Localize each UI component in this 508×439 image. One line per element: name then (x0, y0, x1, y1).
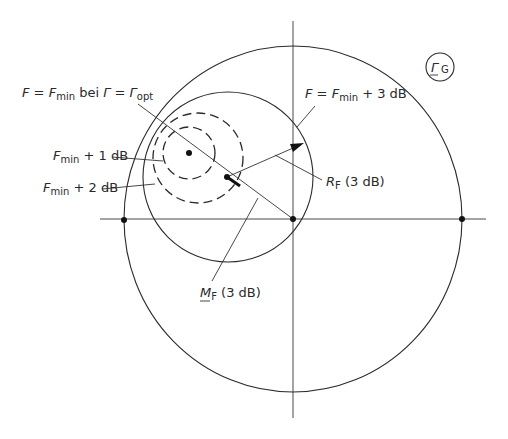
radius-arrowhead-icon (290, 143, 304, 152)
noise-circle-diagram: Γ G F = Fmin bei Γ = Γopt Fmin + 1 dB Fm… (0, 0, 508, 439)
right-axis-point (459, 216, 465, 222)
label-center-mf: MF (3 dB) (200, 285, 261, 302)
label-fmin-plus-2db: Fmin + 2 dB (43, 180, 118, 197)
gamma-g-sub: G (441, 64, 449, 75)
left-axis-point (121, 217, 127, 223)
label-fmin-plus-1db: Fmin + 1 dB (53, 148, 128, 165)
label-radius-rf: RF (3 dB) (326, 174, 385, 191)
label-fmin-plus-3db: F = Fmin + 3 dB (305, 86, 407, 103)
label-optimum: F = Fmin bei Γ = Γopt (22, 85, 153, 102)
gamma-g-symbol: Γ (431, 60, 440, 75)
leader-3db (297, 106, 315, 127)
radius-line (227, 145, 300, 177)
mf-point (224, 174, 230, 180)
leader-mf (212, 198, 258, 281)
noise-circle-2db (153, 113, 243, 203)
leader-rf (275, 155, 322, 180)
gamma-opt-point (186, 150, 192, 156)
origin-point (290, 216, 296, 222)
center-line (138, 104, 293, 219)
